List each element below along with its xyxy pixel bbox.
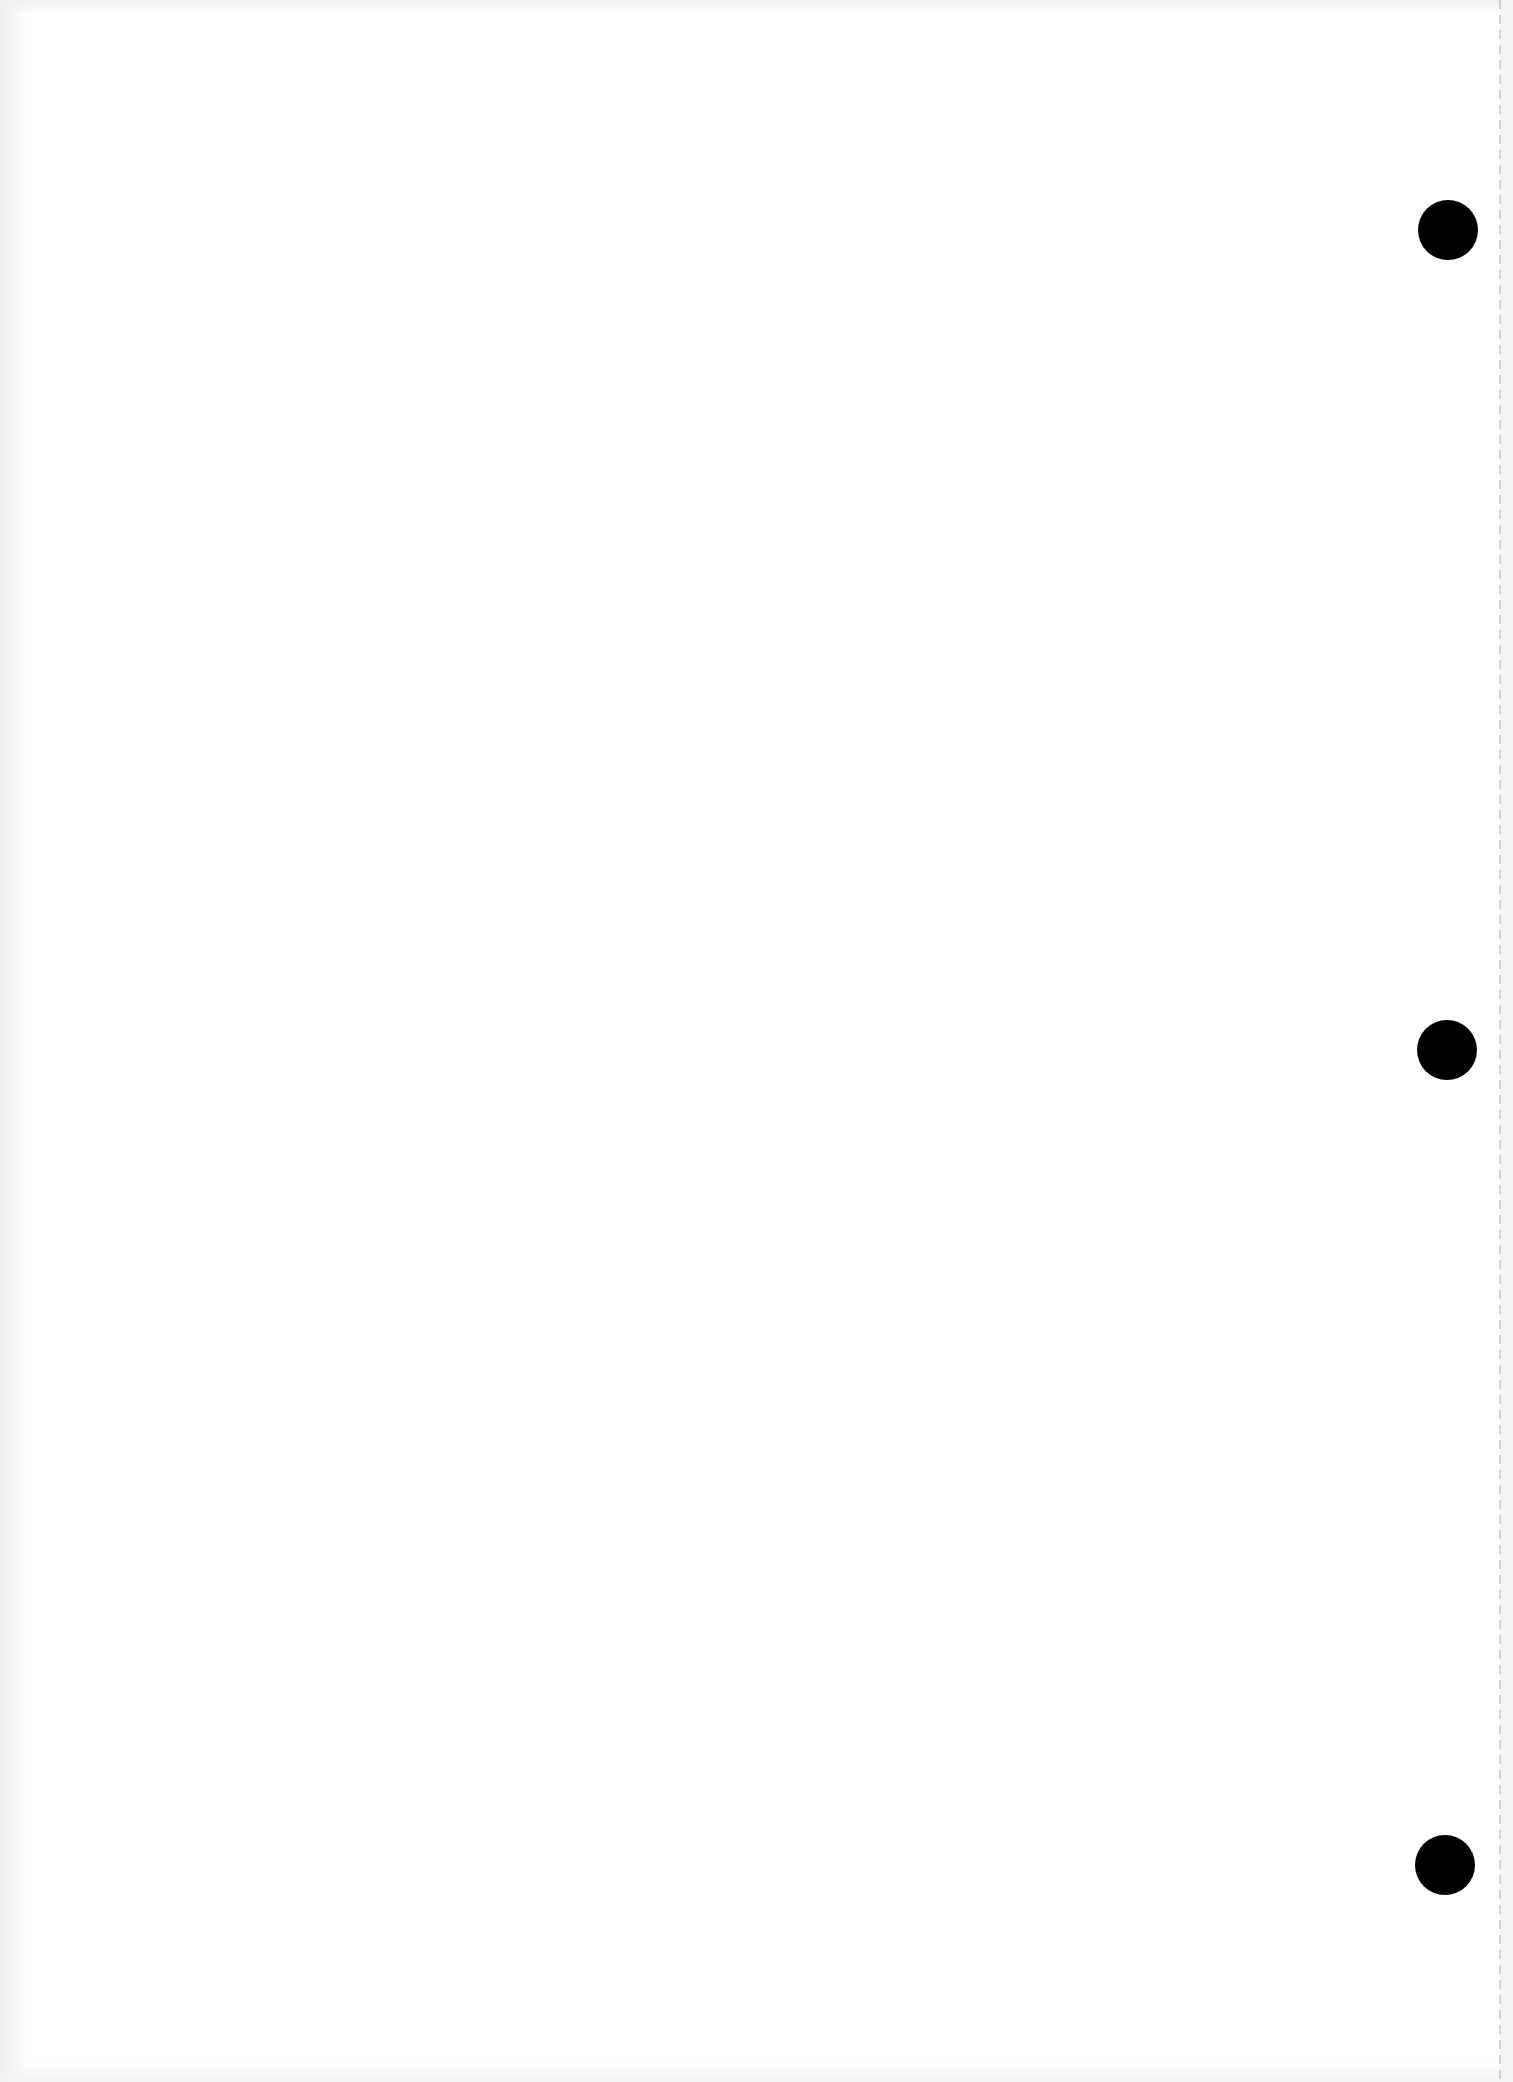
scan-shadow-top	[0, 0, 1513, 14]
punch-hole-icon	[1418, 200, 1478, 260]
perforation-line	[1499, 0, 1501, 2082]
perforation-strip	[1500, 0, 1513, 2082]
blank-page	[0, 0, 1513, 2082]
punch-hole-icon	[1417, 1020, 1477, 1080]
scan-shadow-left	[0, 0, 28, 2082]
scan-shadow-bottom	[0, 2060, 1513, 2082]
punch-hole-icon	[1415, 1835, 1475, 1895]
